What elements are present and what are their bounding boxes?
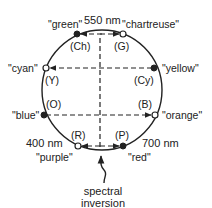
name-yellow: "yellow" — [162, 62, 199, 74]
name-red: "red" — [128, 151, 151, 163]
point-Y — [43, 65, 49, 71]
spectral-inversion-diagram: 550 nm 400 nm 700 nm "green" "chartreuse… — [0, 0, 212, 208]
code-Y: (Y) — [45, 74, 59, 86]
color-circle — [42, 30, 162, 150]
name-cyan: "cyan" — [8, 62, 38, 74]
name-green: "green" — [48, 18, 83, 30]
point-P — [120, 143, 126, 149]
caption-line2: inversion — [81, 197, 125, 208]
code-Cy: (Cy) — [134, 74, 154, 86]
point-R — [75, 143, 81, 149]
code-B: (B) — [138, 98, 152, 110]
code-G: (G) — [114, 40, 129, 52]
name-chartreuse: "chartreuse" — [122, 18, 179, 30]
label-700nm: 700 nm — [142, 137, 179, 149]
point-G — [120, 31, 126, 37]
name-purple: "purple" — [36, 151, 73, 163]
code-R: (R) — [71, 129, 86, 141]
point-Cy — [151, 65, 157, 71]
name-orange: "orange" — [162, 109, 202, 121]
label-400nm: 400 nm — [26, 137, 63, 149]
point-O — [41, 112, 47, 118]
point-B — [152, 112, 158, 118]
point-Ch — [74, 31, 80, 37]
label-550nm: 550 nm — [84, 14, 121, 26]
pointer-arrow — [101, 156, 106, 183]
name-blue: "blue" — [12, 109, 40, 121]
caption-line1: spectral — [84, 185, 123, 197]
code-P: (P) — [115, 129, 129, 141]
code-Ch: (Ch) — [70, 40, 90, 52]
code-O: (O) — [46, 98, 61, 110]
